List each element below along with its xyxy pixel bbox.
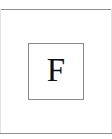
letter-glyph: F (47, 54, 65, 87)
letter-box: F (28, 43, 84, 100)
page-canvas: F (0, 0, 112, 139)
bottom-horizontal-rule (0, 133, 112, 134)
left-vertical-rule (0, 9, 1, 134)
top-horizontal-rule (0, 9, 112, 10)
right-vertical-rule (111, 9, 112, 134)
